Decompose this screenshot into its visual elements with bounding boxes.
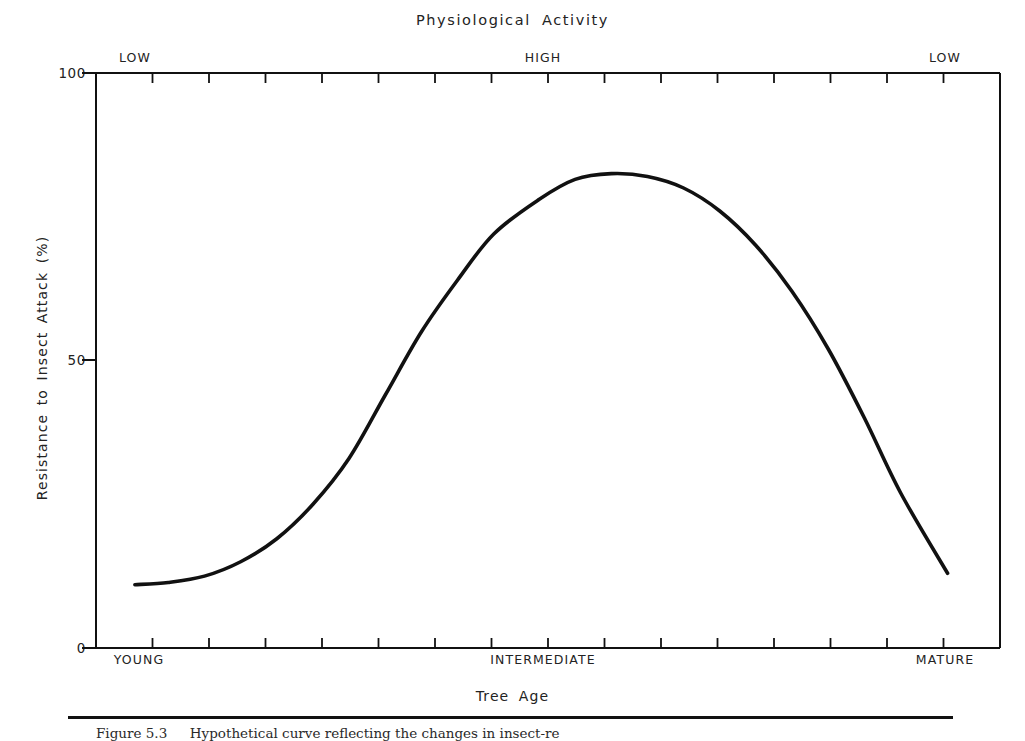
figure-caption-text: Hypothetical curve reflecting the change… (190, 725, 560, 741)
bottom-axis-ticks (96, 633, 1000, 648)
y-axis-ticks (82, 73, 96, 648)
x-axis-title: Tree Age (0, 688, 1025, 704)
plot-frame (96, 73, 1000, 648)
bottom-axis-label-young: YOUNG (114, 652, 164, 667)
bottom-axis-label-intermediate: INTERMEDIATE (490, 652, 596, 667)
figure-caption-label: Figure 5.3 (96, 725, 167, 741)
caption-divider (68, 716, 953, 719)
figure-caption: Figure 5.3 Hypothetical curve reflecting… (96, 725, 956, 741)
bottom-axis-label-mature: MATURE (916, 652, 974, 667)
data-curve (135, 174, 948, 585)
top-axis-ticks (96, 73, 944, 86)
